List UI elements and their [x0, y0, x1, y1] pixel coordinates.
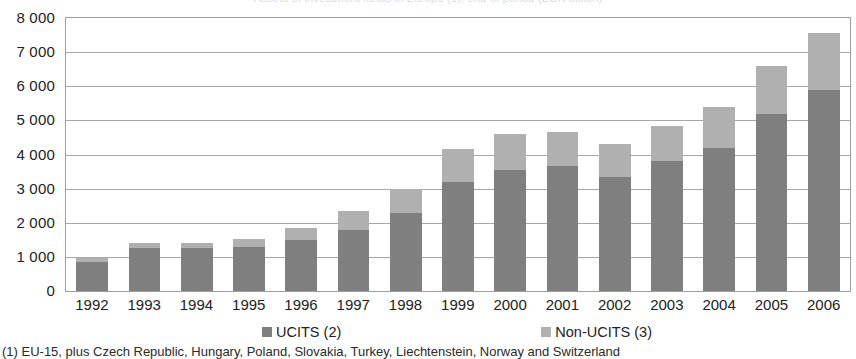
x-tick-label: 1999: [441, 295, 473, 317]
x-tick-label: 2001: [546, 295, 578, 317]
y-tick-label: 7 000: [16, 44, 55, 59]
bar-group[interactable]: [129, 18, 161, 291]
bar-group[interactable]: [181, 18, 213, 291]
y-tick-label: 2 000: [16, 214, 55, 229]
bar-segment-non-ucits[interactable]: [808, 33, 840, 89]
bar-segment-non-ucits[interactable]: [442, 149, 474, 181]
bar-segment-non-ucits[interactable]: [651, 126, 683, 162]
bar-group[interactable]: [390, 18, 422, 291]
bar-segment-non-ucits[interactable]: [494, 134, 526, 170]
x-tick-label: 2005: [755, 295, 787, 317]
x-tick-label: 1994: [180, 295, 212, 317]
legend-item[interactable]: UCITS (2): [262, 324, 341, 340]
bar-segment-ucits[interactable]: [233, 247, 265, 291]
legend-swatch-icon: [262, 327, 272, 337]
bar-group[interactable]: [651, 18, 683, 291]
bar-group[interactable]: [756, 18, 788, 291]
y-tick-label: 0: [46, 283, 55, 298]
bar-segment-ucits[interactable]: [651, 161, 683, 291]
x-tick-label: 2002: [598, 295, 630, 317]
chart-title: Assets of investment funds in Europe (1)…: [0, 0, 856, 6]
bar-group[interactable]: [547, 18, 579, 291]
bar-segment-ucits[interactable]: [547, 166, 579, 291]
bar-group[interactable]: [442, 18, 474, 291]
bar-segment-ucits[interactable]: [76, 262, 108, 291]
bar-segment-non-ucits[interactable]: [703, 107, 735, 148]
bar-segment-ucits[interactable]: [285, 240, 317, 291]
plot-area: [65, 17, 851, 292]
bar-segment-ucits[interactable]: [703, 148, 735, 291]
x-tick-label: 1993: [128, 295, 160, 317]
y-tick-label: 8 000: [16, 10, 55, 25]
legend-label: Non-UCITS (3): [555, 324, 652, 340]
bar-segment-non-ucits[interactable]: [599, 144, 631, 176]
bar-group[interactable]: [76, 18, 108, 291]
bar-segment-ucits[interactable]: [338, 230, 370, 291]
bar-segment-ucits[interactable]: [599, 177, 631, 291]
y-tick-label: 6 000: [16, 78, 55, 93]
x-tick-label: 2006: [807, 295, 839, 317]
y-tick-label: 1 000: [16, 248, 55, 263]
bar-group[interactable]: [599, 18, 631, 291]
bar-group[interactable]: [233, 18, 265, 291]
chart-legend: UCITS (2)Non-UCITS (3): [65, 322, 849, 342]
y-axis: 8 0007 0006 0005 0004 0003 0002 0001 000…: [0, 11, 63, 290]
bar-segment-non-ucits[interactable]: [756, 66, 788, 114]
x-tick-label: 2003: [650, 295, 682, 317]
y-tick-label: 3 000: [16, 180, 55, 195]
bar-group[interactable]: [338, 18, 370, 291]
bar-group[interactable]: [703, 18, 735, 291]
bar-segment-non-ucits[interactable]: [547, 132, 579, 166]
bar-group[interactable]: [285, 18, 317, 291]
bar-segment-ucits[interactable]: [494, 170, 526, 291]
bar-segment-ucits[interactable]: [442, 182, 474, 291]
plot-wrapper: 8 0007 0006 0005 0004 0003 0002 0001 000…: [0, 11, 856, 296]
bar-segment-ucits[interactable]: [129, 248, 161, 291]
legend-label: UCITS (2): [276, 324, 341, 340]
bar-segment-ucits[interactable]: [756, 114, 788, 291]
x-tick-label: 1998: [389, 295, 421, 317]
bar-group[interactable]: [808, 18, 840, 291]
x-axis: 1992199319941995199619971998199920002001…: [65, 295, 849, 317]
bar-segment-ucits[interactable]: [808, 90, 840, 291]
y-tick-label: 5 000: [16, 112, 55, 127]
x-tick-label: 1997: [337, 295, 369, 317]
x-tick-label: 2000: [493, 295, 525, 317]
x-tick-label: 1995: [232, 295, 264, 317]
y-tick-label: 4 000: [16, 146, 55, 161]
legend-swatch-icon: [541, 327, 551, 337]
bar-segment-non-ucits[interactable]: [233, 239, 265, 247]
chart-footnote: (1) EU-15, plus Czech Republic, Hungary,…: [2, 344, 854, 359]
bars-layer: [66, 18, 850, 291]
bar-segment-non-ucits[interactable]: [338, 211, 370, 230]
bar-group[interactable]: [494, 18, 526, 291]
bar-segment-non-ucits[interactable]: [390, 189, 422, 213]
x-tick-label: 1992: [75, 295, 107, 317]
bar-segment-ucits[interactable]: [181, 248, 213, 291]
x-tick-label: 1996: [284, 295, 316, 317]
x-tick-label: 2004: [702, 295, 734, 317]
bar-segment-ucits[interactable]: [390, 213, 422, 291]
bar-segment-non-ucits[interactable]: [285, 228, 317, 240]
legend-item[interactable]: Non-UCITS (3): [541, 324, 652, 340]
